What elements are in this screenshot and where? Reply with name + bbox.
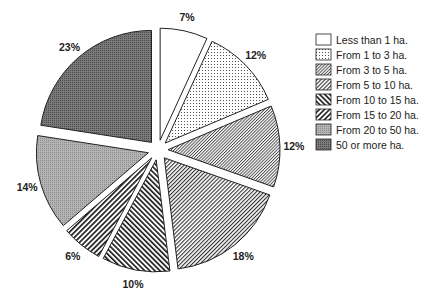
slice-label: 18% [233, 250, 255, 262]
legend: Less than 1 ha.From 1 to 3 ha.From 3 to … [316, 34, 419, 151]
legend-label: From 10 to 15 ha. [336, 94, 419, 106]
legend-swatch [316, 139, 331, 150]
legend-label: From 3 to 5 ha. [336, 64, 407, 76]
legend-swatch [316, 49, 331, 60]
pie-chart: 7%12%12%18%10%6%14%23% Less than 1 ha.Fr… [0, 0, 436, 295]
legend-swatch [316, 64, 331, 75]
slice-label: 23% [59, 41, 81, 53]
slice-label: 12% [245, 49, 267, 61]
slice-label: 12% [283, 140, 305, 152]
legend-label: Less than 1 ha. [336, 34, 408, 46]
pie-slice [41, 30, 152, 142]
legend-swatch [316, 34, 331, 45]
legend-swatch [316, 109, 331, 120]
legend-swatch [316, 79, 331, 90]
slice-label: 10% [123, 278, 145, 290]
legend-label: 50 or more ha. [336, 139, 404, 151]
legend-label: From 20 to 50 ha. [336, 124, 419, 136]
pie-slices [36, 28, 280, 272]
legend-label: From 1 to 3 ha. [336, 49, 407, 61]
slice-label: 14% [17, 181, 39, 193]
slice-label: 7% [180, 11, 196, 23]
slice-label: 6% [65, 250, 81, 262]
legend-label: From 15 to 20 ha. [336, 109, 419, 121]
legend-swatch [316, 124, 331, 135]
legend-swatch [316, 94, 331, 105]
legend-label: From 5 to 10 ha. [336, 79, 413, 91]
